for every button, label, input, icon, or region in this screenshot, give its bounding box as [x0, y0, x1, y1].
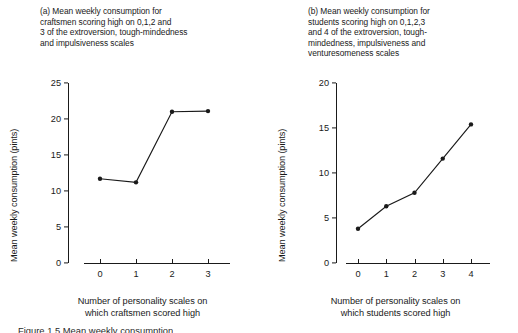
panel-b-x-axis-label-line-2: which students scored high: [283, 308, 508, 320]
b-data-point: [412, 191, 416, 195]
panel-a-series: [38, 78, 248, 270]
panel-a-title-line-3: 3 of the extroversion, tough-mindedness: [40, 27, 254, 38]
chart-panel-a: (a) Mean weekly consumption for craftsme…: [0, 0, 259, 320]
a-data-point: [170, 110, 174, 114]
chart-panel-b: (b) Mean weekly consumption for students…: [259, 0, 518, 320]
b-data-point: [356, 227, 360, 231]
panel-a-x-axis-label: Number of personality scales on which cr…: [30, 296, 255, 319]
panel-b-plot-area: 05101520 01234: [306, 78, 506, 270]
panel-b-series: [306, 78, 506, 270]
a-x-tick-label: 1: [133, 269, 138, 279]
panel-b-title-line-3: and 4 of the extroversion, tough-: [308, 27, 514, 38]
panel-a-y-axis-label: Mean weekly consumption (pints): [9, 129, 19, 262]
b-x-tick-label: 2: [412, 269, 417, 279]
panel-b-x-axis-label: Number of personality scales on which st…: [283, 296, 508, 319]
b-x-tick-label: 0: [355, 269, 360, 279]
panel-a-title-line-4: and impulsiveness scales: [40, 38, 254, 49]
a-x-tick-label: 0: [97, 269, 102, 279]
a-x-tick-label: 2: [169, 269, 174, 279]
panel-b-y-axis-label: Mean weekly consumption (pints): [277, 129, 287, 262]
b-x-tick-label: 4: [468, 269, 473, 279]
a-data-point: [134, 180, 138, 184]
panel-a-x-axis-label-line-1: Number of personality scales on: [30, 296, 255, 308]
panel-a-x-axis-label-line-2: which craftsmen scored high: [30, 308, 255, 320]
a-data-point: [98, 177, 102, 181]
a-x-tick-label: 3: [205, 269, 210, 279]
panel-b-title-line-2: students scoring high on 0,1,2,3: [308, 17, 514, 28]
panel-b-x-axis-label-line-1: Number of personality scales on: [283, 296, 508, 308]
figure-container: (a) Mean weekly consumption for craftsme…: [0, 0, 518, 333]
b-x-tick-label: 1: [384, 269, 389, 279]
b-series-line: [358, 124, 471, 228]
panel-a-plot-area: 0510152025 0123: [38, 78, 248, 270]
panel-b-title-line-1: (b) Mean weekly consumption for: [308, 6, 514, 17]
panel-a-title-line-1: (a) Mean weekly consumption for: [40, 6, 254, 17]
b-x-tick-label: 3: [440, 269, 445, 279]
b-data-point: [441, 156, 445, 160]
a-data-point: [206, 109, 210, 113]
figure-caption: Figure 1.5 Mean weekly consumption: [18, 325, 173, 333]
panel-a-title: (a) Mean weekly consumption for craftsme…: [40, 6, 254, 48]
panel-b-title-line-4: mindedness, impulsiveness and: [308, 38, 514, 49]
panel-b-title: (b) Mean weekly consumption for students…: [308, 6, 514, 59]
panel-b-title-line-5: venturesomeness scales: [308, 48, 514, 59]
panel-a-title-line-2: craftsmen scoring high on 0,1,2 and: [40, 17, 254, 28]
b-data-point: [384, 204, 388, 208]
a-series-line: [100, 111, 208, 182]
b-data-point: [469, 122, 473, 126]
